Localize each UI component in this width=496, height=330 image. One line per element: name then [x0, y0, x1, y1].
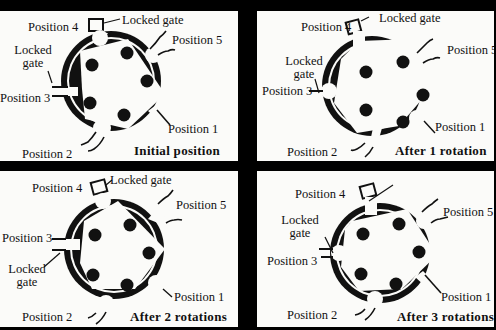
- label-position-3: Position 3: [262, 85, 312, 98]
- label-position-5: Position 5: [172, 34, 222, 47]
- label-locked-gate-side: Locked gate: [6, 263, 48, 288]
- label-locked-gate-top: Locked gate: [379, 12, 440, 25]
- label-position-1: Position 1: [441, 291, 491, 304]
- label-position-2: Position 2: [287, 309, 337, 322]
- panel-after-3-rotations: Position 4 Position 5 Locked gate Positi…: [257, 171, 494, 327]
- label-locked-gate-top: Locked gate: [110, 174, 171, 187]
- label-position-4: Position 4: [295, 188, 345, 201]
- label-locked-gate-side: Locked gate: [283, 55, 325, 80]
- label-position-2: Position 2: [22, 311, 72, 324]
- label-locked-gate-top: Locked gate: [122, 14, 183, 27]
- label-locked-gate-side: Locked gate: [279, 214, 321, 239]
- label-locked-gate-side: Locked gate: [12, 44, 54, 69]
- label-position-4: Position 4: [28, 21, 78, 34]
- label-position-4: Position 4: [301, 21, 351, 34]
- panel-caption: After 1 rotation: [395, 144, 487, 157]
- label-position-5: Position 5: [443, 206, 493, 219]
- label-position-2: Position 2: [287, 146, 337, 159]
- label-position-3: Position 3: [267, 255, 317, 268]
- label-position-1: Position 1: [174, 291, 224, 304]
- panel-caption: Initial position: [134, 144, 220, 157]
- panel-after-1-rotation: Locked gate Position 4 Position 5 Locked…: [257, 11, 494, 161]
- panel-caption: After 3 rotations: [397, 310, 494, 323]
- label-position-5: Position 5: [176, 199, 226, 212]
- label-position-3: Position 3: [0, 92, 50, 105]
- panel-initial-position: Locked gate Position 4 Position 5 Locked…: [0, 11, 238, 161]
- label-position-5: Position 5: [447, 44, 494, 57]
- label-position-2: Position 2: [22, 148, 72, 161]
- label-position-3: Position 3: [2, 232, 52, 245]
- panel-caption: After 2 rotations: [130, 310, 227, 323]
- label-position-4: Position 4: [32, 182, 82, 195]
- panel-after-2-rotations: Locked gate Position 4 Position 5 Positi…: [0, 171, 238, 327]
- label-position-1: Position 1: [435, 121, 485, 134]
- label-position-1: Position 1: [168, 123, 218, 136]
